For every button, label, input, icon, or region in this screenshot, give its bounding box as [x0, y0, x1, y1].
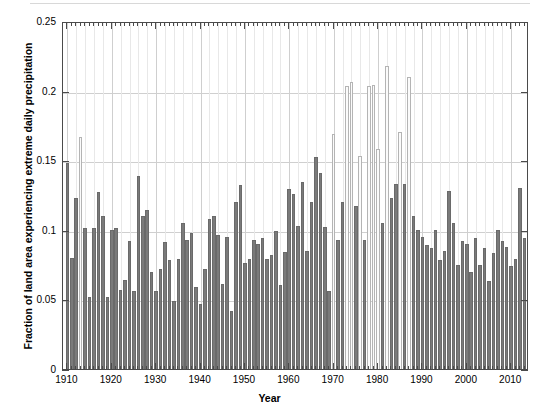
bar: [66, 163, 70, 369]
bar: [283, 252, 287, 369]
x-tick-mark: [284, 366, 285, 370]
bar: [523, 238, 527, 369]
bar: [92, 228, 96, 369]
x-tick-mark: [337, 22, 338, 26]
bar: [145, 210, 149, 369]
x-tick-mark: [204, 22, 205, 26]
y-tick-mark: [521, 300, 528, 301]
bar: [150, 272, 154, 369]
bar: [243, 263, 247, 369]
x-tick-mark: [195, 22, 196, 26]
bar: [358, 156, 362, 369]
bar: [159, 269, 163, 369]
y-tick-mark: [62, 300, 69, 301]
x-tick-mark: [244, 22, 245, 29]
x-tick-mark: [98, 366, 99, 370]
x-tick-mark: [133, 22, 134, 26]
bar: [296, 226, 300, 369]
x-tick-mark: [395, 366, 396, 370]
bar: [407, 77, 411, 369]
x-tick-mark: [66, 363, 67, 370]
x-tick-mark: [417, 22, 418, 26]
x-tick-mark: [337, 366, 338, 370]
bar: [465, 244, 469, 369]
x-tick-mark: [173, 366, 174, 370]
bar: [350, 82, 354, 369]
bar: [287, 189, 291, 369]
x-tick-mark: [186, 366, 187, 370]
bar: [132, 291, 136, 369]
x-tick-mark: [302, 366, 303, 370]
x-tick-mark: [306, 366, 307, 370]
x-tick-mark: [350, 366, 351, 370]
bar: [185, 240, 189, 369]
bar: [483, 248, 487, 369]
bar: [469, 272, 473, 369]
x-tick-mark: [146, 22, 147, 26]
x-tick-mark: [333, 363, 334, 370]
bar: [292, 194, 296, 369]
x-tick-mark: [124, 22, 125, 26]
x-tick-mark: [155, 22, 156, 29]
bar: [305, 251, 309, 369]
x-tick-mark: [510, 22, 511, 29]
bar: [443, 251, 447, 369]
x-tick-mark: [355, 22, 356, 26]
x-tick-mark: [240, 366, 241, 370]
x-tick-mark: [350, 22, 351, 26]
x-tick-mark: [160, 366, 161, 370]
bar: [372, 85, 376, 369]
x-tick-mark: [311, 366, 312, 370]
bar: [177, 259, 181, 369]
bar: [478, 265, 482, 369]
x-tick-mark: [257, 22, 258, 26]
bar: [137, 176, 141, 369]
x-tick-mark: [524, 366, 525, 370]
bar: [216, 235, 220, 369]
bar: [221, 284, 225, 369]
bar: [425, 245, 429, 369]
x-tick-mark: [293, 22, 294, 26]
bar: [190, 233, 194, 369]
x-tick-mark: [98, 22, 99, 26]
bar: [319, 173, 323, 369]
x-tick-mark: [200, 363, 201, 370]
x-tick-mark: [466, 22, 467, 29]
x-tick-mark: [435, 366, 436, 370]
x-tick-mark: [102, 22, 103, 26]
x-tick-mark: [155, 363, 156, 370]
x-tick-mark: [377, 22, 378, 29]
x-tick-mark: [120, 366, 121, 370]
bar: [474, 238, 478, 369]
x-tick-label: 1990: [396, 374, 446, 385]
x-tick-mark: [177, 366, 178, 370]
bar: [83, 228, 87, 369]
x-tick-label: 2010: [485, 374, 535, 385]
x-tick-mark: [302, 22, 303, 26]
bar: [101, 216, 105, 369]
x-tick-mark: [453, 366, 454, 370]
x-tick-mark: [315, 22, 316, 26]
bar: [154, 291, 158, 369]
x-tick-mark: [390, 22, 391, 26]
bar: [385, 66, 389, 369]
x-tick-mark: [399, 366, 400, 370]
x-tick-mark: [93, 366, 94, 370]
x-tick-mark: [169, 366, 170, 370]
bar: [230, 311, 234, 369]
x-tick-mark: [137, 22, 138, 26]
bar: [194, 287, 198, 369]
x-tick-mark: [488, 366, 489, 370]
x-tick-mark: [515, 22, 516, 26]
x-tick-mark: [71, 22, 72, 26]
x-tick-mark: [417, 366, 418, 370]
bar: [323, 227, 327, 369]
x-tick-mark: [506, 366, 507, 370]
x-tick-mark: [177, 22, 178, 26]
y-tick-mark: [521, 370, 528, 371]
x-tick-mark: [279, 366, 280, 370]
x-tick-mark: [240, 22, 241, 26]
x-tick-mark: [413, 366, 414, 370]
x-tick-mark: [111, 363, 112, 370]
x-tick-mark: [519, 366, 520, 370]
